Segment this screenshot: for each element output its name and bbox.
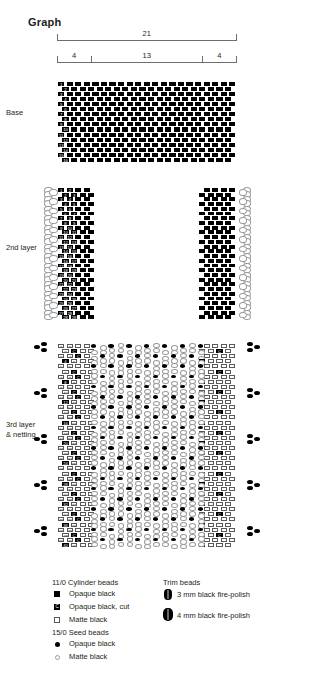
third-layer-bead-numbered: 25	[58, 466, 64, 470]
netting-seed-opaque	[100, 538, 105, 542]
third-layer-bead	[221, 446, 227, 450]
third-layer-bead	[229, 354, 235, 358]
third-layer-bead	[229, 405, 235, 409]
netting-seed-matte	[118, 424, 125, 429]
netting-seed-opaque	[91, 426, 96, 430]
netting-seed-opaque	[162, 487, 167, 491]
third-layer-bead: C	[216, 533, 222, 537]
netting-seed-matte	[171, 485, 178, 490]
netting-seed-opaque	[198, 487, 203, 491]
third-layer-bead	[229, 507, 235, 511]
third-layer-bead: 4	[67, 354, 73, 358]
third-layer-bead	[221, 497, 227, 501]
third-layer-bead	[208, 390, 214, 394]
third-layer-bead	[225, 472, 231, 476]
third-layer-bead: C	[75, 395, 81, 399]
netting-seed-matte	[135, 462, 142, 467]
third-layer-bead-numbered: 33	[58, 507, 64, 511]
netting-seed-opaque	[126, 446, 131, 450]
netting-seed-opaque	[144, 507, 149, 511]
trim-bead-cluster-bead	[41, 348, 47, 352]
netting-seed-matte	[180, 358, 187, 363]
third-layer-bead-numbered: 13	[58, 405, 64, 409]
netting-seed-opaque	[189, 517, 194, 521]
third-layer-bead: C	[71, 349, 77, 353]
netting-seed-matte	[171, 526, 178, 531]
netting-seed-opaque	[198, 507, 203, 511]
netting-seed-matte	[127, 460, 134, 465]
netting-seed-matte	[162, 420, 169, 425]
third-layer-bead	[216, 543, 222, 547]
netting-seed-opaque	[126, 487, 131, 491]
third-layer-bead	[212, 415, 218, 419]
netting-seed-opaque	[126, 385, 131, 389]
netting-seed-matte	[91, 542, 98, 547]
netting-seed-matte	[144, 440, 151, 445]
trim-bead-cluster-bead	[41, 394, 47, 398]
netting-seed-matte	[91, 350, 98, 355]
netting-seed-opaque	[135, 436, 140, 440]
netting-seed-opaque	[135, 395, 140, 399]
netting-seed-opaque	[108, 466, 113, 470]
legend-label-matte-black-seed: Matte black	[69, 652, 107, 661]
third-layer-bead: 8	[67, 375, 73, 379]
third-layer-bead	[225, 421, 231, 425]
third-layer-bead	[80, 370, 86, 374]
third-layer-bead	[208, 533, 214, 537]
netting-seed-opaque	[153, 497, 158, 501]
third-layer-bead	[229, 517, 235, 521]
third-layer-bead	[208, 410, 214, 414]
third-layer-bead	[208, 349, 214, 353]
third-layer-bead: 40	[71, 543, 77, 547]
netting-seed-matte	[127, 414, 134, 419]
third-layer-bead	[75, 528, 81, 532]
third-layer-bead	[225, 502, 231, 506]
legend-swatch-opaque-black-seed	[55, 642, 60, 647]
third-layer-bead: 13	[71, 400, 77, 404]
legend-swatch-opaque-black-cut: C	[54, 604, 60, 610]
third-layer-bead	[208, 482, 214, 486]
third-layer-bead	[80, 451, 86, 455]
trim-bead-cluster-bead	[254, 437, 260, 441]
netting-seed-opaque	[91, 344, 96, 348]
netting-seed-opaque	[180, 446, 185, 450]
third-layer-bead	[208, 431, 214, 435]
third-layer-bead: 38	[67, 528, 73, 532]
netting-seed-opaque	[162, 364, 167, 368]
legend-label-matte-black-cylinder: Matte black	[69, 615, 107, 624]
netting-seed-opaque	[171, 354, 176, 358]
netting-seed-opaque	[180, 507, 185, 511]
third-layer-bead-numbered: 3	[58, 354, 64, 358]
third-layer-bead	[208, 380, 214, 384]
third-layer-bead	[212, 354, 218, 358]
third-layer-bead	[84, 364, 90, 368]
netting-seed-matte	[153, 360, 160, 365]
netting-seed-opaque	[117, 354, 122, 358]
netting-seed-matte	[109, 358, 116, 363]
third-layer-bead	[216, 482, 222, 486]
trim-bead-cluster-bead	[247, 388, 253, 392]
netting-seed-opaque	[180, 385, 185, 389]
trim-bead-cluster-bead	[247, 480, 253, 484]
third-layer-bead	[216, 380, 222, 384]
third-layer-bead	[84, 415, 90, 419]
netting-seed-matte	[171, 532, 178, 537]
netting-seed-matte	[162, 501, 169, 506]
third-layer-bead	[212, 466, 218, 470]
netting-seed-matte	[127, 350, 134, 355]
netting-seed-matte	[127, 373, 134, 378]
netting-seed-opaque	[100, 497, 105, 501]
trim-bead-cluster-bead	[247, 342, 253, 346]
third-layer-bead	[208, 543, 214, 547]
third-layer-bead: C	[71, 390, 77, 394]
third-layer-bead	[204, 466, 210, 470]
trim-bead-cluster-bead	[247, 434, 253, 438]
third-layer-bead	[212, 436, 218, 440]
netting-seed-matte	[162, 513, 169, 518]
netting-seed-opaque	[91, 385, 96, 389]
netting-seed-matte	[189, 389, 196, 394]
netting-seed-opaque	[162, 385, 167, 389]
third-layer-bead	[75, 364, 81, 368]
third-layer-bead	[221, 354, 227, 358]
third-layer-bead	[208, 370, 214, 374]
